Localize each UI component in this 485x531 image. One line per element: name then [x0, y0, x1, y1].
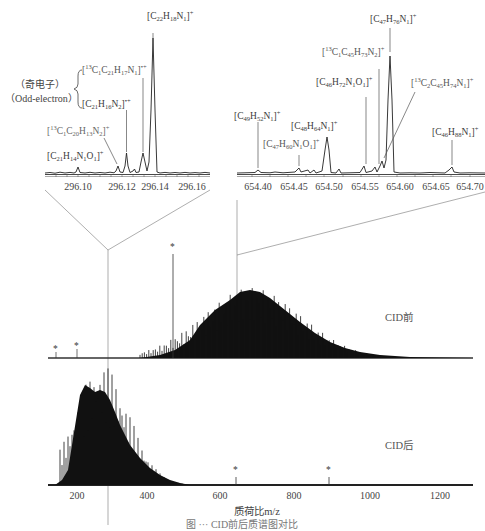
peak-label-13c1c21h17n1: [13C1C21H17N1]•+: [82, 64, 147, 77]
after-envelope: [55, 385, 190, 485]
right-tick-3: 654.55: [351, 181, 379, 192]
x-tick-1000: 1000: [360, 490, 380, 501]
peak-label-c46h72n1o1: [C46H72N1O1]+: [316, 76, 372, 89]
right-tick-4: 654.60: [386, 181, 414, 192]
x-tick-1200: 1200: [430, 490, 450, 501]
peak-label-c49h52n1: [C49H52N1]+: [234, 110, 280, 123]
x-tick-600: 600: [213, 490, 228, 501]
peak-label-c21h16n2: [C21H16N2]•+: [82, 98, 131, 111]
label-cid-after: CID后: [385, 437, 413, 452]
left-tick-3: 296.16: [178, 181, 206, 192]
x-tick-400: 400: [140, 490, 155, 501]
peak-label-c48h64n1: [C48H64N1]+: [291, 120, 337, 133]
label-cid-before: CID前: [385, 309, 413, 324]
star-marker-475: *: [170, 243, 175, 253]
right-tick-1: 654.45: [280, 181, 308, 192]
right-tick-6: 654.70: [456, 181, 484, 192]
peak-label-c46h88n1: [C46H88N1]+: [432, 126, 478, 139]
figure-caption: 图 ··· CID前后质谱图对比: [186, 516, 298, 531]
left-tick-1: 296.12: [108, 181, 136, 192]
left-tick-0: 296.10: [64, 181, 92, 192]
right-tick-5: 654.65: [422, 181, 450, 192]
odd-electron-annotation: （奇电子） （Odd-electron）: [5, 78, 75, 106]
star-marker-645: *: [233, 466, 238, 476]
peak-label-c21h14n1o1: [C21H14N1O1]+: [47, 150, 103, 163]
before-envelope: [140, 290, 473, 358]
left-inset-axis: [45, 174, 210, 177]
peak-label-13c1c45h73n2: [13C1C45H73N2]+: [322, 46, 384, 59]
star-marker-205: *: [74, 342, 79, 352]
star-marker-170: *: [53, 345, 58, 355]
x-tick-800: 800: [287, 490, 302, 501]
peak-label-c47h60n1o1: [C47H60N1O1]+: [263, 138, 319, 151]
x-tick-200: 200: [70, 490, 85, 501]
right-tick-0: 654.40: [244, 181, 272, 192]
right-tick-2: 654.50: [315, 181, 343, 192]
peak-label-c22h18n1: [C22H18N1]+: [147, 10, 193, 23]
peak-label-13c1c20h13n2: [13C1C20H13N2]+: [47, 125, 109, 138]
right-inset-axis: [237, 174, 485, 177]
peak-label-c47h76n1: [C47H76N1]+: [370, 13, 416, 26]
peak-label-13c2c45h74n1: [13C2C45H74N1]+: [411, 77, 473, 90]
odd-electron-cn: （奇电子）: [5, 78, 75, 92]
odd-electron-en: （Odd-electron）: [5, 92, 75, 106]
left-tick-2: 296.14: [141, 181, 169, 192]
star-marker-895: *: [326, 466, 331, 476]
